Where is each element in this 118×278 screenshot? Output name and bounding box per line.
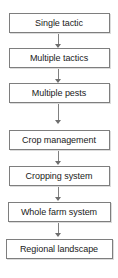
node-box-regional-landscape: Regional landscape xyxy=(6,239,113,259)
node-box-multiple-tactics: Multiple tactics xyxy=(9,48,110,68)
flowchart-node: Multiple pests xyxy=(0,83,118,103)
node-label: Whole farm system xyxy=(21,208,97,217)
node-label: Regional landscape xyxy=(20,245,98,254)
node-label: Cropping system xyxy=(26,172,93,181)
arrow-connector xyxy=(54,104,63,124)
arrow-connector xyxy=(54,151,63,165)
flowchart-node: Cropping system xyxy=(0,166,118,186)
node-box-whole-farm-system: Whole farm system xyxy=(8,202,111,222)
flowchart-node: Regional landscape xyxy=(0,239,118,259)
node-box-crop-management: Crop management xyxy=(9,130,110,150)
node-label: Single tactic xyxy=(35,19,83,28)
flowchart-node: Multiple tactics xyxy=(0,48,118,68)
node-box-single-tactic: Single tactic xyxy=(9,13,110,33)
node-label: Multiple tactics xyxy=(30,54,88,63)
node-label: Crop management xyxy=(22,136,96,145)
flowchart-node: Whole farm system xyxy=(0,202,118,222)
arrow-connector xyxy=(54,34,63,48)
node-box-multiple-pests: Multiple pests xyxy=(9,83,110,103)
flowchart-node: Single tactic xyxy=(0,13,118,33)
arrow-connector xyxy=(54,223,63,237)
node-box-cropping-system: Cropping system xyxy=(9,166,110,186)
node-label: Multiple pests xyxy=(32,89,86,98)
flowchart-node: Crop management xyxy=(0,130,118,150)
flowchart-diagram: Single tactic Multiple tactics Multiple … xyxy=(0,0,118,278)
arrow-connector xyxy=(54,69,63,83)
arrow-connector xyxy=(54,187,63,201)
